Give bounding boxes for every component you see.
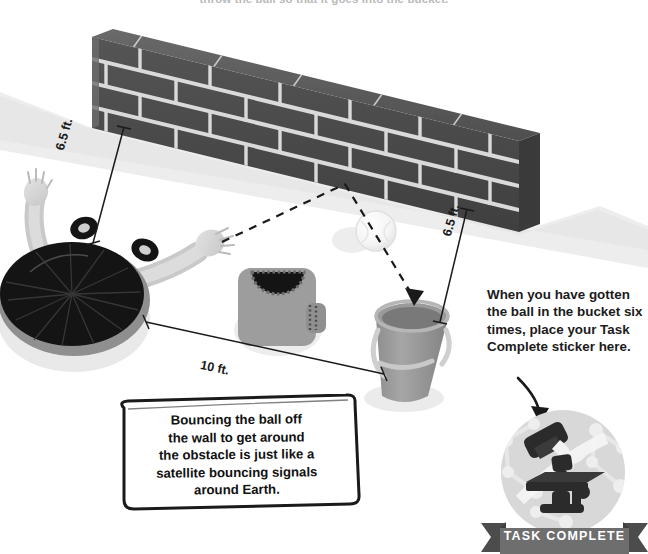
wall-end-cap <box>519 133 540 232</box>
task-complete-banner-label-wrap: TASK COMPLETE <box>481 520 648 554</box>
person-obstacle <box>234 268 326 356</box>
task-complete-sticker <box>499 410 628 534</box>
fact-line-5: around Earth. <box>157 481 318 500</box>
bucket <box>364 301 449 412</box>
instruction-line-2: the ball in the bucket six <box>487 303 643 320</box>
fact-line-4: satellite bouncing signals <box>156 463 317 482</box>
task-card-scene: throw the ball so that it goes into the … <box>0 0 648 554</box>
fact-line-1: Bouncing the ball off <box>156 410 317 429</box>
task-complete-label: TASK COMPLETE <box>481 529 648 543</box>
science-fact-callout: Bouncing the ball off the wall to get ar… <box>117 397 358 514</box>
fact-line-3: the obstacle is just like a <box>156 446 317 465</box>
ball <box>332 211 396 253</box>
science-fact-text: Bouncing the ball off the wall to get ar… <box>156 410 318 499</box>
fact-line-2: the wall to get around <box>156 428 317 447</box>
instruction-line-1: When you have gotten <box>487 286 643 303</box>
person-throwing <box>0 169 234 372</box>
instruction-line-4: Complete sticker here. <box>487 338 643 355</box>
instruction-line-3: times, place your Task <box>487 321 643 338</box>
sticker-instruction: When you have gotten the ball in the buc… <box>487 286 643 356</box>
hair <box>0 242 144 346</box>
